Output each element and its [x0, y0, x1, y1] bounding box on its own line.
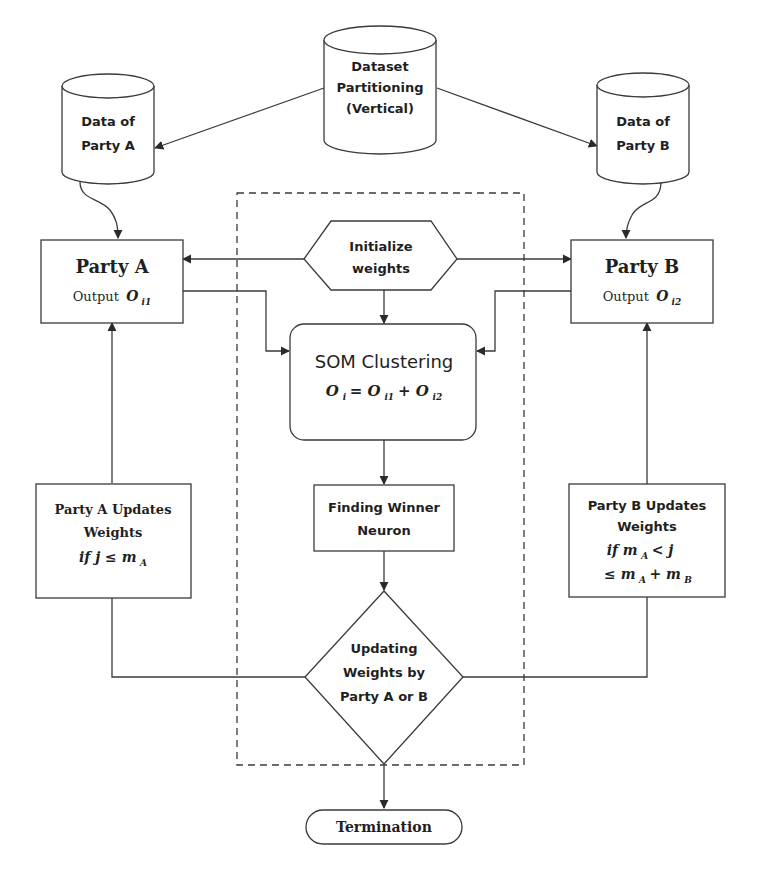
data-party-b-cylinder: Data of Party B	[597, 73, 689, 184]
updating-weights-decision: Updating Weights by Party A or B	[305, 591, 463, 764]
arrow-dataset-to-data-b	[437, 88, 597, 146]
finding-winner-neuron-box: Finding Winner Neuron	[314, 485, 454, 551]
update-a-label-line1: Party A Updates	[55, 502, 172, 517]
party-b-title: Party B	[605, 256, 679, 277]
arrow-data-b-to-party-b	[626, 182, 661, 238]
initialize-label-line1: Initialize	[349, 239, 412, 254]
line-decision-to-update-a	[112, 598, 305, 677]
decision-label-line1: Updating	[350, 641, 417, 656]
arrow-data-a-to-party-a	[80, 182, 118, 238]
arrow-dataset-to-data-a	[155, 88, 324, 148]
update-b-label-line1: Party B Updates	[588, 498, 707, 513]
data-a-label-line2: Party A	[81, 138, 135, 153]
winner-label-line1: Finding Winner	[328, 500, 441, 515]
party-a-title: Party A	[75, 256, 149, 277]
decision-label-line2: Weights by	[343, 665, 425, 680]
party-a-updates-box: Party A Updates Weights if j ≤ m A	[36, 484, 191, 598]
dataset-partitioning-cylinder: Dataset Partitioning (Vertical)	[324, 26, 436, 154]
party-b-box: Party B Output O i2	[571, 240, 713, 323]
data-party-a-cylinder: Data of Party A	[62, 74, 154, 184]
data-b-label-line2: Party B	[616, 138, 670, 153]
decision-label-line3: Party A or B	[340, 689, 428, 704]
party-a-box: Party A Output O i1	[41, 240, 183, 323]
flowchart-canvas: Dataset Partitioning (Vertical) Data of …	[0, 0, 757, 887]
dataset-label-line1: Dataset	[351, 59, 408, 74]
initialize-label-line2: weights	[352, 261, 410, 276]
data-a-label-line1: Data of	[81, 114, 135, 129]
data-b-label-line1: Data of	[616, 114, 670, 129]
dataset-label-line2: Partitioning	[337, 80, 424, 95]
party-b-updates-box: Party B Updates Weights if m A < j ≤ m A…	[569, 484, 725, 597]
winner-label-line2: Neuron	[357, 523, 411, 538]
dataset-label-line3: (Vertical)	[346, 101, 414, 116]
som-title: SOM Clustering	[315, 351, 454, 372]
initialize-weights-hexagon: Initialize weights	[304, 221, 457, 290]
som-clustering-box: SOM Clustering O i = O i1 + O i2	[290, 324, 476, 440]
termination-label: Termination	[336, 819, 432, 835]
arrow-party-a-output-to-som	[183, 291, 289, 351]
update-b-label-line2: Weights	[617, 519, 677, 534]
line-decision-to-update-b	[463, 597, 647, 677]
termination-terminal: Termination	[306, 810, 462, 844]
update-a-label-line2: Weights	[83, 525, 143, 540]
